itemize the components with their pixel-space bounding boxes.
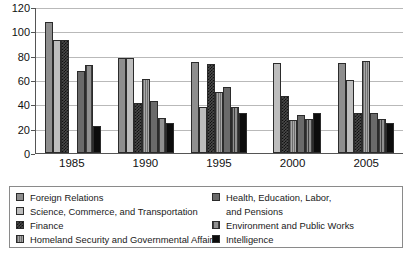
y-tick-label: 0 [24,149,30,160]
bar [239,113,247,153]
legend-label: Finance [30,219,63,232]
bar [118,58,126,153]
bar [93,126,101,153]
legend-swatch-icon [16,235,24,243]
legend-label: and Pensions [226,205,283,218]
legend-label: Health, Education, Labor, [226,191,331,204]
legend-swatch-icon [16,221,24,229]
bar [362,61,370,153]
bar-group-2005 [338,8,394,153]
legend-swatch-icon [16,193,24,201]
bar [378,119,386,153]
x-tick-label: 1990 [110,156,180,174]
legend-item-foreign-relations: Foreign Relations [16,191,212,204]
bar [61,40,69,153]
legend-swatch-icon [212,235,220,243]
bar [370,113,378,153]
bar [273,63,281,153]
bar [142,79,150,153]
bar [305,119,313,153]
bar [158,118,166,153]
y-tick-label: 100 [12,27,30,38]
legend-swatch-icon [16,207,24,215]
bar [166,123,174,153]
bar [85,65,93,153]
y-tick-label: 40 [18,100,30,111]
y-tick-label: 60 [18,76,30,87]
legend-item-science-commerce-transportation: Science, Commerce, and Transportation [16,205,212,218]
x-tick-label: 2000 [258,156,328,174]
legend-column-left: Foreign Relations Science, Commerce, and… [16,191,212,247]
bar [77,71,85,153]
bar [199,107,207,153]
legend-swatch-icon [212,193,220,201]
legend-item-environment-public-works: Environment and Public Works [212,219,396,232]
legend-label: Science, Commerce, and Transportation [30,205,198,218]
plot-area [35,8,403,154]
x-tick-label: 1985 [37,156,107,174]
bar [134,103,142,153]
bar [126,58,134,153]
bar [150,101,158,153]
bar [45,22,53,153]
legend-label: Foreign Relations [30,191,103,204]
bar-group-1995 [191,8,247,153]
bar [313,113,321,153]
bar [346,80,354,153]
y-tick-label: 20 [18,124,30,135]
legend-label: Environment and Public Works [226,219,354,232]
legend-label: Intelligence [226,233,273,246]
chart-legend: Foreign Relations Science, Commerce, and… [9,186,403,248]
x-axis: 1985 1990 1995 2000 2005 [35,156,403,174]
legend-swatch-icon [212,221,220,229]
legend-item-health-education-labor-pensions-line2: and Pensions [212,205,396,218]
y-axis: 120 100 80 60 40 20 0 [0,8,30,154]
y-tick-label: 80 [18,51,30,62]
legend-item-homeland-security: Homeland Security and Governmental Affai… [16,233,212,246]
x-tick-label: 1995 [184,156,254,174]
bar [231,107,239,153]
legend-item-intelligence: Intelligence [212,233,396,246]
bar [215,92,223,153]
bar-groups [36,8,403,153]
bar-chart: 120 100 80 60 40 20 0 1985 1990 1995 200… [0,0,413,180]
legend-item-health-education-labor-pensions: Health, Education, Labor, [212,191,396,204]
legend-label: Homeland Security and Governmental Affai… [30,233,217,246]
x-tick-label: 2005 [331,156,401,174]
bar [297,115,305,153]
bar [281,96,289,153]
bar [223,87,231,153]
bar [53,40,61,153]
bar [338,63,346,153]
bar [289,120,297,153]
bar-group-1990 [118,8,174,153]
bar [191,62,199,153]
legend-swatch-spacer [212,207,220,215]
bar [386,123,394,153]
bar-group-1985 [45,8,101,153]
bar [354,113,362,153]
y-tick-label: 120 [12,3,30,14]
bar [207,64,215,153]
legend-column-right: Health, Education, Labor, and Pensions E… [212,191,396,247]
legend-item-finance: Finance [16,219,212,232]
y-tick-mark [31,154,35,155]
bar-group-2000 [265,8,321,153]
